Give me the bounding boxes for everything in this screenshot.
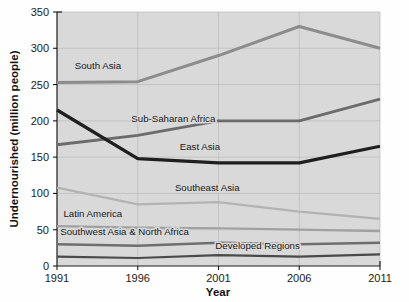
chart-container: South AsiaSouth AsiaSub-Saharan AfricaSu… <box>0 0 409 302</box>
series-label-sub-saharan-africa: Sub-Saharan Africa <box>131 113 216 124</box>
x-tick-label: 2011 <box>368 272 392 284</box>
y-tick-label: 200 <box>31 115 49 127</box>
y-tick-label: 350 <box>31 6 49 18</box>
y-tick-label: 300 <box>31 42 49 54</box>
y-axis-title: Undernourished (million people) <box>8 50 20 227</box>
y-tick-label: 100 <box>31 187 49 199</box>
x-tick-label: 2006 <box>287 272 311 284</box>
series-label-latin-america: Latin America <box>63 208 122 219</box>
y-tick-label: 50 <box>37 224 49 236</box>
y-tick-label: 250 <box>31 79 49 91</box>
line-chart: South AsiaSouth AsiaSub-Saharan AfricaSu… <box>0 0 409 302</box>
series-label-east-asia: East Asia <box>180 141 221 152</box>
series-label-southwest-asia-north-africa: Southwest Asia & North Africa <box>60 226 189 237</box>
series-label-south-asia: South Asia <box>75 60 122 71</box>
x-tick-label: 1996 <box>126 272 150 284</box>
x-tick-label: 2001 <box>206 272 230 284</box>
y-tick-label: 150 <box>31 151 49 163</box>
x-axis-tick-labels: 19911996200120062011 <box>45 272 392 284</box>
y-tick-label: 0 <box>43 260 49 272</box>
x-axis-title: Year <box>206 286 231 298</box>
x-tick-label: 1991 <box>45 272 69 284</box>
series-label-southeast-asia: Southeast Asia <box>175 182 240 193</box>
series-label-developed-regions: Developed Regions <box>215 240 300 251</box>
y-axis-tick-labels: 050100150200250300350 <box>31 6 49 272</box>
